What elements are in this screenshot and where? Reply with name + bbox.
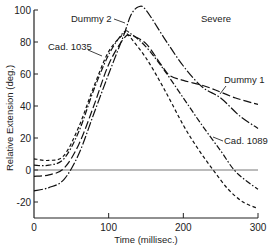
- condition-label: Severe: [201, 13, 231, 24]
- x-tick-label: 0: [31, 222, 37, 233]
- label-dummy-1: Dummy 1: [224, 74, 265, 85]
- x-tick-label: 300: [250, 222, 267, 233]
- curves: [34, 6, 258, 208]
- y-tick-label: 100: [14, 5, 31, 16]
- y-tick-label: 0: [25, 165, 31, 176]
- x-ticks: 0100200300: [31, 213, 267, 233]
- label-cad-1035: Cad. 1035: [48, 41, 92, 52]
- x-tick-label: 100: [100, 222, 117, 233]
- label-dummy-2: Dummy 2: [71, 13, 112, 24]
- y-tick-label: 40: [20, 101, 32, 112]
- chart: 100806040200-20 0100200300 Relative Exte…: [0, 0, 273, 247]
- y-tick-label: 60: [20, 69, 32, 80]
- leader-cad-1089: [213, 137, 223, 141]
- y-tick-label: 20: [20, 133, 32, 144]
- x-axis-title: Time (millisec.): [114, 234, 178, 245]
- label-cad-1089: Cad. 1089: [224, 135, 268, 146]
- y-tick-label: -20: [17, 197, 32, 208]
- x-tick-label: 200: [175, 222, 192, 233]
- series-cad-1089: [34, 31, 258, 208]
- y-axis-title: Relative Extension (deg.): [4, 65, 15, 171]
- leader-cad-1035: [88, 50, 102, 56]
- series-cad-1035: [34, 31, 258, 189]
- leader-dummy-2: [114, 19, 125, 23]
- y-tick-label: 80: [20, 37, 32, 48]
